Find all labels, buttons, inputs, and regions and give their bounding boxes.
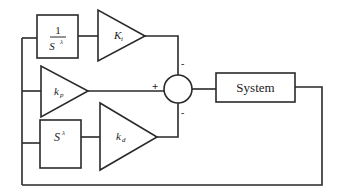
sum-sign-top: - xyxy=(181,58,184,69)
differentiator-base: S xyxy=(54,130,60,144)
summing-junction: - + - xyxy=(152,58,192,118)
integrator-denominator-exponent: λ xyxy=(59,38,63,46)
ki-subscript: i xyxy=(121,35,123,43)
system-label: System xyxy=(236,80,274,95)
kd-gain-block: k d xyxy=(100,103,157,170)
ki-gain-block: K i xyxy=(98,10,145,61)
ki-to-sum xyxy=(145,36,178,75)
kd-to-sum xyxy=(157,103,178,137)
integrator-numerator: 1 xyxy=(55,24,61,36)
differentiator-exponent: λ xyxy=(61,129,65,137)
sum-sign-left: + xyxy=(152,80,158,92)
differentiator-block: S λ xyxy=(40,120,81,168)
system-block: System xyxy=(216,73,295,102)
sum-sign-bottom: - xyxy=(181,107,184,118)
kp-gain-block: k p xyxy=(41,66,88,117)
kp-subscript: p xyxy=(59,91,64,99)
kd-subscript: d xyxy=(122,136,126,144)
block-diagram: 1 S λ K i k p S λ k d - + - System xyxy=(0,0,339,192)
integrator-denominator-base: S xyxy=(49,40,55,52)
integrator-block: 1 S λ xyxy=(37,15,78,58)
